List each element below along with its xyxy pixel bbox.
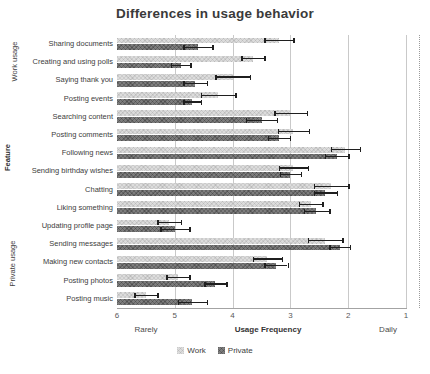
bar-private-9 [117,190,325,196]
group-label-private-usage: Private usage [8,224,17,304]
error-cap-right [207,81,208,86]
legend-label-work: Work [187,346,206,355]
error-cap-right [250,75,251,80]
error-cap-left [278,129,279,134]
error-bar-private-8 [280,174,301,175]
x-axis-caption-rarely: Rarely [121,325,171,334]
error-cap-left [178,300,179,305]
error-bar-private-7 [325,156,348,157]
error-cap-left [201,93,202,98]
category-label-11: Updating profile page [0,217,113,235]
error-cap-left [253,257,254,262]
right-dotted-gridline [419,35,420,308]
error-bar-private-10 [304,211,329,212]
error-bar-private-4 [183,101,200,102]
error-cap-right [264,56,265,61]
bar-work-12 [117,238,325,244]
error-cap-left [183,45,184,50]
legend-swatch-private [218,347,225,354]
error-cap-right [226,282,227,287]
bar-work-8 [117,165,293,171]
error-bar-work-3 [215,76,250,77]
error-cap-right [212,45,213,50]
bar-work-6 [117,129,293,135]
error-cap-right [307,111,308,116]
error-cap-right [348,184,349,189]
error-bar-work-11 [157,222,180,223]
error-bar-work-5 [274,113,306,114]
x-axis-line [117,308,407,309]
error-cap-left [171,63,172,68]
chart: Differences in usage behavior Sharing do… [0,0,430,374]
x-axis-title: Usage Frequency [218,325,318,334]
error-cap-left [314,184,315,189]
error-cap-right [235,93,236,98]
bar-private-13 [117,263,276,269]
error-cap-right [190,63,191,68]
error-cap-right [290,136,291,141]
error-bar-work-4 [201,95,236,96]
error-cap-left [279,166,280,171]
error-bar-work-14 [166,277,189,278]
bar-work-7 [117,147,345,153]
error-cap-left [325,154,326,159]
error-cap-left [215,75,216,80]
error-cap-left [264,263,265,268]
error-bar-private-15 [178,302,207,303]
error-cap-left [264,38,265,43]
error-cap-left [308,238,309,243]
legend-swatch-work [177,347,184,354]
error-cap-right [207,300,208,305]
error-cap-right [201,100,202,105]
error-bar-private-1 [183,47,212,48]
error-bar-work-15 [134,295,157,296]
error-cap-right [277,118,278,123]
x-tick-6: 6 [105,311,129,320]
category-label-10: Liking something [0,199,113,217]
bar-work-13 [117,256,267,262]
error-bar-work-6 [278,131,309,132]
bar-work-2 [117,56,253,62]
error-cap-left [314,191,315,196]
error-bar-private-11 [160,229,189,230]
bar-private-6 [117,135,279,141]
bar-private-7 [117,154,337,160]
x-tick-2: 2 [336,311,360,320]
error-cap-right [308,166,309,171]
error-cap-left [268,136,269,141]
error-bar-work-13 [253,258,282,259]
error-bar-work-2 [241,58,264,59]
error-bar-private-6 [268,138,290,139]
legend-entry-private: Private [218,346,253,355]
error-cap-right [350,245,351,250]
bar-work-1 [117,38,279,44]
error-bar-work-9 [314,186,349,187]
error-bar-private-12 [329,247,350,248]
category-label-13: Making new contacts [0,253,113,271]
error-bar-work-8 [279,167,308,168]
error-cap-left [204,282,205,287]
error-cap-right [329,209,330,214]
error-cap-right [309,129,310,134]
bar-private-4 [117,99,192,105]
bar-private-14 [117,281,215,287]
error-cap-left [157,220,158,225]
category-label-14: Posting photos [0,272,113,290]
bar-work-9 [117,183,331,189]
category-label-8: Sending birthday wishes [0,162,113,180]
error-cap-left [183,81,184,86]
category-label-6: Posting comments [0,126,113,144]
x-tick-3: 3 [278,311,302,320]
category-label-15: Posting music [0,290,113,308]
error-cap-right [322,202,323,207]
error-cap-right [337,191,338,196]
error-cap-left [299,202,300,207]
category-label-5: Searching content [0,108,113,126]
error-bar-private-2 [171,65,191,66]
gridline-1 [406,35,407,308]
bar-work-5 [117,110,290,116]
bar-work-10 [117,201,311,207]
chart-title: Differences in usage behavior [0,6,430,21]
error-cap-left [241,56,242,61]
error-cap-right [301,172,302,177]
